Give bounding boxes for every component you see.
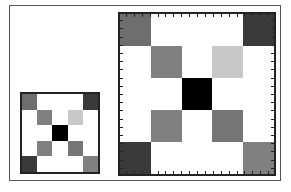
pixel-cell xyxy=(83,156,98,172)
pixel-cell xyxy=(37,156,52,172)
pixel-cell xyxy=(68,156,83,172)
pixel-cell xyxy=(212,78,243,110)
pixel-cell xyxy=(151,46,182,78)
pixel-cell xyxy=(212,46,243,78)
pixel-cell xyxy=(212,110,243,142)
pixel-cell xyxy=(120,142,151,174)
small-pixel-grid xyxy=(20,92,100,174)
pixel-cell xyxy=(52,94,67,110)
pixel-cell xyxy=(37,110,52,126)
pixel-cell xyxy=(243,78,274,110)
pixel-cell xyxy=(37,125,52,141)
pixel-cell xyxy=(243,142,274,174)
pixel-cell xyxy=(182,142,213,174)
pixel-cell xyxy=(182,46,213,78)
pixel-cell xyxy=(37,94,52,110)
pixel-cell xyxy=(68,141,83,157)
pixel-cell xyxy=(120,110,151,142)
pixel-cell xyxy=(37,141,52,157)
pixel-cell xyxy=(68,94,83,110)
pixel-cell xyxy=(83,94,98,110)
pixel-cell xyxy=(83,110,98,126)
pixel-cell xyxy=(52,141,67,157)
pixel-cell xyxy=(22,156,37,172)
pixel-cell xyxy=(22,125,37,141)
pixel-cell xyxy=(182,78,213,110)
pixel-cell xyxy=(22,94,37,110)
pixel-cell xyxy=(243,14,274,46)
pixel-cell xyxy=(182,110,213,142)
pixel-cell xyxy=(120,78,151,110)
pixel-cell xyxy=(52,110,67,126)
pixel-cell xyxy=(68,110,83,126)
pixel-cell xyxy=(212,14,243,46)
pixel-cell xyxy=(151,78,182,110)
pixel-cell xyxy=(68,125,83,141)
pixel-cell xyxy=(151,14,182,46)
pixel-cell xyxy=(52,125,67,141)
large-pixel-grid xyxy=(118,12,276,176)
pixel-cell xyxy=(120,46,151,78)
pixel-cell xyxy=(22,110,37,126)
pixel-cell xyxy=(83,141,98,157)
pixel-cell xyxy=(212,142,243,174)
pixel-cell xyxy=(243,46,274,78)
pixel-cell xyxy=(83,125,98,141)
pixel-cell xyxy=(243,110,274,142)
pixel-cell xyxy=(182,14,213,46)
pixel-cell xyxy=(22,141,37,157)
pixel-cell xyxy=(151,142,182,174)
pixel-cell xyxy=(151,110,182,142)
pixel-cell xyxy=(52,156,67,172)
pixel-cell xyxy=(120,14,151,46)
